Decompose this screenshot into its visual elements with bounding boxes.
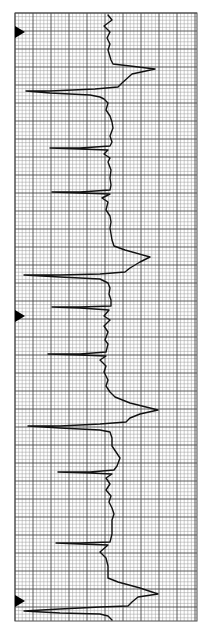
ecg-figure: [0, 0, 203, 643]
markers: [15, 26, 25, 607]
marker-1-arrow-icon: [15, 26, 25, 38]
ecg-strip: [0, 0, 203, 643]
ecg-trace: [24, 15, 158, 620]
marker-3-arrow-icon: [15, 595, 25, 607]
